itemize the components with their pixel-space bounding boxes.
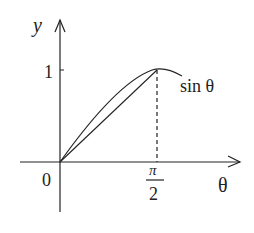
origin-label: 0 xyxy=(42,170,51,190)
curve-label: sin θ xyxy=(180,76,214,96)
sine-curve xyxy=(60,69,182,162)
sine-vs-line-diagram: y θ 0 1 π 2 sin θ xyxy=(0,0,254,233)
x-tick-denominator: 2 xyxy=(149,184,158,204)
y-tick-label: 1 xyxy=(44,62,53,82)
x-axis-label: θ xyxy=(218,174,228,196)
y-axis-label: y xyxy=(31,14,42,37)
x-tick-numerator: π xyxy=(149,162,157,178)
chord-line xyxy=(60,70,157,162)
